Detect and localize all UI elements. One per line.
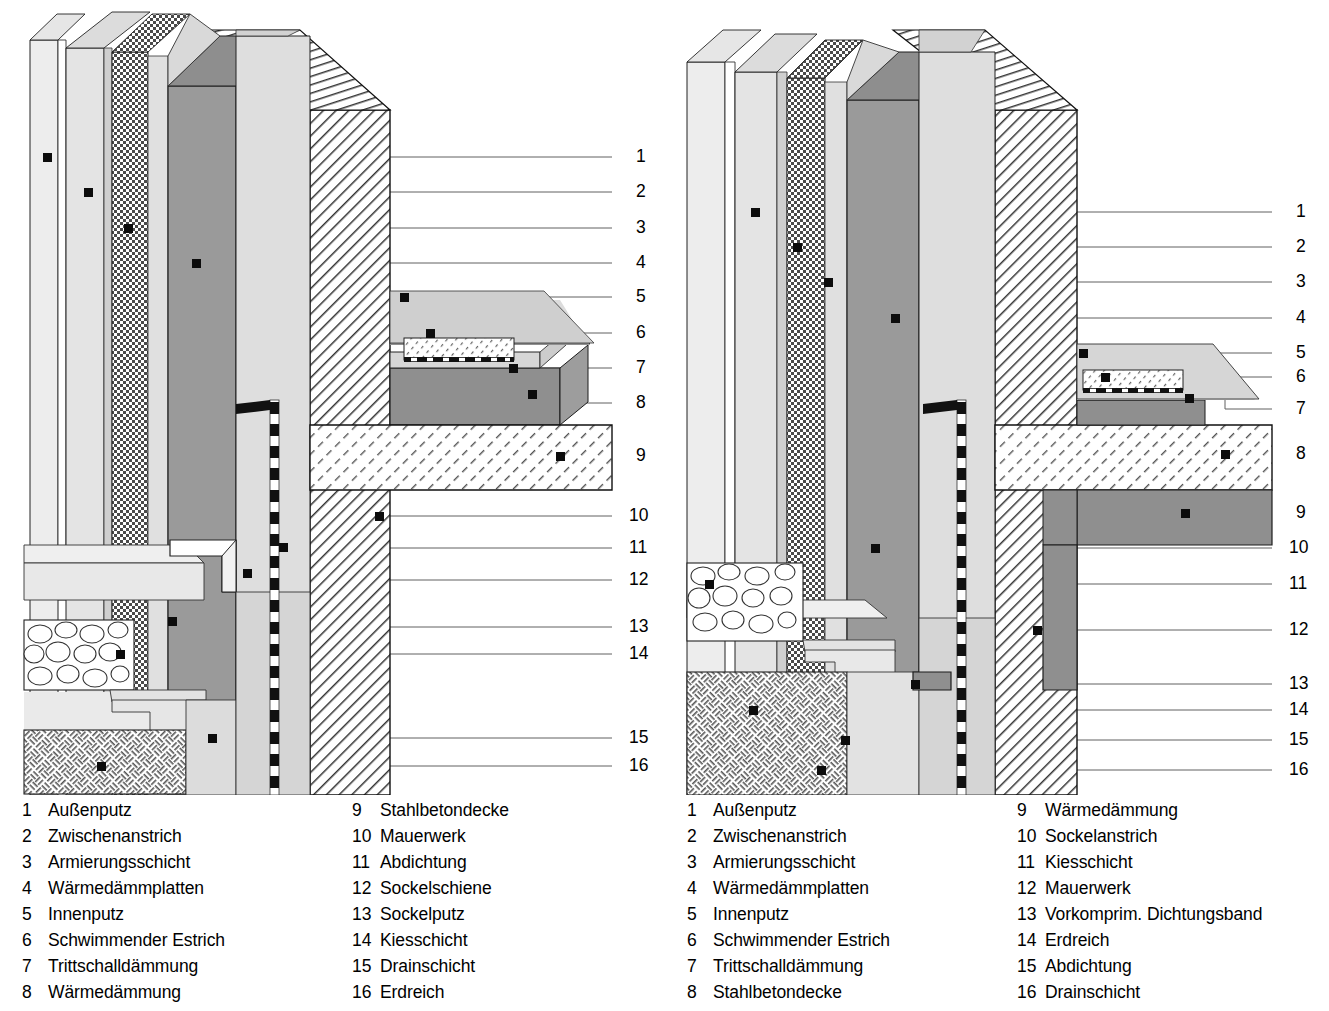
legend-label: Zwischenanstrich (713, 823, 847, 849)
callout-number-7: 7 (1296, 400, 1306, 418)
callout-number-7: 7 (636, 359, 646, 377)
legend-label: Außenputz (713, 797, 797, 823)
legend-item: 1Außenputz (687, 797, 1007, 823)
legend-number: 16 (352, 979, 380, 1005)
legend-right: 1Außenputz 2Zwischenanstrich 3Armierungs… (665, 797, 1329, 1011)
callout-number-11: 11 (1289, 575, 1307, 593)
legend-number: 8 (22, 979, 48, 1005)
callout-number-16: 16 (1289, 761, 1308, 779)
callout-number-14: 14 (1289, 701, 1308, 719)
callout-number-4: 4 (1296, 309, 1306, 327)
legend-label: Trittschalldämmung (48, 953, 198, 979)
legend-label: Wärmedämmung (48, 979, 181, 1005)
callout-number-2: 2 (636, 183, 646, 201)
callout-number-5: 5 (1296, 344, 1306, 362)
legend-item: 5Innenputz (22, 901, 342, 927)
legend-label: Mauerwerk (1045, 875, 1131, 901)
legend-number: 2 (687, 823, 713, 849)
callout-number-11: 11 (629, 539, 647, 557)
legend-label: Zwischenanstrich (48, 823, 182, 849)
legend-left: 1Außenputz 2Zwischenanstrich 3Armierungs… (0, 797, 664, 1011)
legend-item: 15Abdichtung (1017, 953, 1329, 979)
callout-number-15: 15 (629, 729, 648, 747)
legend-label: Wärmedämmung (1045, 797, 1178, 823)
legend-item: 2Zwischenanstrich (22, 823, 342, 849)
callout-number-10: 10 (1289, 539, 1308, 557)
legend-right-column-2: 9Wärmedämmung 10Sockelanstrich 11Kiessch… (1017, 797, 1329, 1005)
legend-label: Kiesschicht (380, 927, 467, 953)
legend-item: 14Erdreich (1017, 927, 1329, 953)
legend-item: 15Drainschicht (352, 953, 664, 979)
legend-number: 5 (22, 901, 48, 927)
callout-number-13: 13 (629, 618, 648, 636)
legend-label: Wärmedämmplatten (48, 875, 204, 901)
legend-label: Erdreich (1045, 927, 1109, 953)
legend-item: 4Wärmedämmplatten (22, 875, 342, 901)
legend-number: 3 (22, 849, 48, 875)
legend-label: Stahlbetondecke (380, 797, 509, 823)
legend-number: 6 (687, 927, 713, 953)
gravel-stones (24, 622, 129, 687)
callout-number-13: 13 (1289, 675, 1308, 693)
legend-label: Sockelanstrich (1045, 823, 1157, 849)
callout-number-3: 3 (636, 219, 646, 237)
legend-label: Stahlbetondecke (713, 979, 842, 1005)
legend-item: 10Sockelanstrich (1017, 823, 1329, 849)
legend-label: Innenputz (48, 901, 124, 927)
detail-left-drawing (0, 0, 664, 795)
callout-number-8: 8 (636, 394, 646, 412)
legend-number: 15 (352, 953, 380, 979)
legend-label: Kiesschicht (1045, 849, 1132, 875)
legend-label: Drainschicht (380, 953, 475, 979)
legend-number: 14 (352, 927, 380, 953)
legend-number: 4 (22, 875, 48, 901)
legend-number: 12 (352, 875, 380, 901)
legend-number: 11 (1017, 849, 1045, 875)
legend-label: Drainschicht (1045, 979, 1140, 1005)
legend-label: Sockelputz (380, 901, 465, 927)
legend-label: Sockelschiene (380, 875, 492, 901)
legend-item: 6Schwimmender Estrich (22, 927, 342, 953)
callout-number-6: 6 (636, 324, 646, 342)
legend-number: 2 (22, 823, 48, 849)
legend-item: 13Sockelputz (352, 901, 664, 927)
legend-item: 9Wärmedämmung (1017, 797, 1329, 823)
legend-number: 1 (22, 797, 48, 823)
legend-number: 7 (687, 953, 713, 979)
legend-label: Armierungsschicht (713, 849, 855, 875)
legend-item: 7Trittschalldämmung (22, 953, 342, 979)
legend-item: 5Innenputz (687, 901, 1007, 927)
legend-number: 15 (1017, 953, 1045, 979)
legend-number: 5 (687, 901, 713, 927)
callout-number-6: 6 (1296, 368, 1306, 386)
legend-item: 12Mauerwerk (1017, 875, 1329, 901)
legend-number: 8 (687, 979, 713, 1005)
callout-number-1: 1 (1296, 203, 1306, 221)
callout-number-4: 4 (636, 254, 646, 272)
legend-label: Schwimmender Estrich (713, 927, 890, 953)
legend-label: Abdichtung (1045, 953, 1132, 979)
legend-number: 9 (352, 797, 380, 823)
legend-item: 3Armierungsschicht (687, 849, 1007, 875)
legend-item: 11Kiesschicht (1017, 849, 1329, 875)
legend-item: 1Außenputz (22, 797, 342, 823)
legend-label: Mauerwerk (380, 823, 466, 849)
legend-item: 4Wärmedämmplatten (687, 875, 1007, 901)
callout-number-3: 3 (1296, 273, 1306, 291)
legend-label: Trittschalldämmung (713, 953, 863, 979)
legend-number: 16 (1017, 979, 1045, 1005)
legend-label: Außenputz (48, 797, 132, 823)
legend-item: 9Stahlbetondecke (352, 797, 664, 823)
legend-number: 12 (1017, 875, 1045, 901)
callout-number-9: 9 (1296, 504, 1306, 522)
legend-item: 12Sockelschiene (352, 875, 664, 901)
legend-item: 14Kiesschicht (352, 927, 664, 953)
legend-number: 7 (22, 953, 48, 979)
callout-number-12: 12 (629, 571, 648, 589)
legend-number: 1 (687, 797, 713, 823)
legend-item: 16Erdreich (352, 979, 664, 1005)
legend-left-column-2: 9Stahlbetondecke 10Mauerwerk 11Abdichtun… (352, 797, 664, 1005)
legend-item: 10Mauerwerk (352, 823, 664, 849)
legend-left-column-1: 1Außenputz 2Zwischenanstrich 3Armierungs… (22, 797, 342, 1005)
detail-right-drawing (665, 0, 1329, 795)
